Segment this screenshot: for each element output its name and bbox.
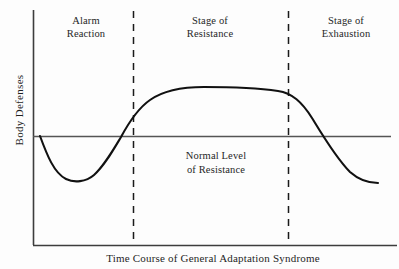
gas-curve-plot xyxy=(0,0,399,269)
gas-curve-figure: Alarm Reaction Stage of Resistance Stage… xyxy=(0,0,399,269)
normal-level-of-resistance-annotation: Normal Level of Resistance xyxy=(152,149,280,177)
stage-label-stage-of-exhaustion: Stage of Exhaustion xyxy=(300,14,392,40)
y-axis-title: Body Defenses xyxy=(13,55,25,165)
stage-label-alarm-reaction: Alarm Reaction xyxy=(48,14,124,40)
stage-label-stage-of-resistance: Stage of Resistance xyxy=(158,14,262,40)
x-axis-title: Time Course of General Adaptation Syndro… xyxy=(33,252,393,264)
